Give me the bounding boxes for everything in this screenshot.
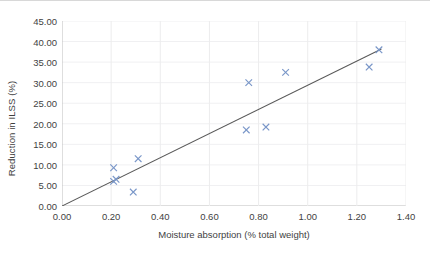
- scatter-plot-svg: [62, 21, 406, 206]
- x-axis-tick-label: 1.20: [348, 211, 367, 222]
- data-point-marker: [366, 64, 373, 71]
- data-point-marker: [243, 127, 250, 134]
- trend-line: [62, 49, 381, 206]
- chart-figure: Reduction in ILSS (%) 0.005.0010.0015.00…: [0, 0, 430, 255]
- y-axis-tick-label: 35.00: [18, 57, 57, 68]
- x-axis-title: Moisture absorption (% total weight): [62, 229, 406, 240]
- y-axis-tick-label: 0.00: [18, 201, 57, 212]
- y-axis-tick-label: 40.00: [18, 36, 57, 47]
- data-point-marker: [113, 176, 120, 183]
- x-axis-tick-labels: 0.000.200.400.600.801.001.201.40: [0, 211, 430, 227]
- x-axis-tick-label: 0.80: [249, 211, 268, 222]
- x-axis-tick-label: 0.00: [53, 211, 72, 222]
- data-point-marker: [376, 46, 383, 53]
- data-point-marker: [130, 189, 137, 196]
- y-axis-tick-label: 30.00: [18, 77, 57, 88]
- y-axis-tick-label: 20.00: [18, 118, 57, 129]
- y-axis-tick-label: 15.00: [18, 139, 57, 150]
- data-point-marker: [282, 69, 289, 76]
- x-axis-tick-label: 0.40: [151, 211, 170, 222]
- plot-area: [62, 21, 406, 206]
- y-axis-tick-label: 45.00: [18, 16, 57, 27]
- data-point-marker: [263, 124, 270, 131]
- x-axis-tick-label: 0.60: [200, 211, 219, 222]
- x-axis-tick-label: 1.00: [298, 211, 317, 222]
- y-axis-tick-label: 5.00: [18, 180, 57, 191]
- y-axis-tick-label: 25.00: [18, 98, 57, 109]
- x-axis-tick-label: 0.20: [102, 211, 121, 222]
- x-axis-tick-label: 1.40: [397, 211, 416, 222]
- data-point-marker: [135, 155, 142, 162]
- y-axis-tick-label: 10.00: [18, 159, 57, 170]
